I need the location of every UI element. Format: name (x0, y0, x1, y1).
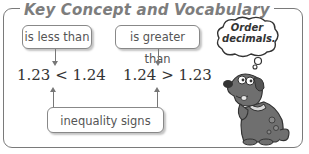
expression-less-than: 1.23 < 1.24 (17, 66, 106, 84)
connector-sign-right (157, 91, 158, 107)
label-greater-than: is greater than (115, 25, 200, 49)
thought-bubble-text: Order decimals. (222, 22, 272, 44)
thought-line-2: decimals. (222, 33, 272, 44)
label-inequality-signs: inequality signs (47, 107, 164, 133)
thought-line-1: Order (222, 22, 272, 33)
dog-mascot-icon (214, 68, 294, 148)
connector-sign-left (53, 91, 54, 107)
label-less-than: is less than (22, 25, 92, 49)
expression-greater-than: 1.24 > 1.23 (123, 66, 212, 84)
